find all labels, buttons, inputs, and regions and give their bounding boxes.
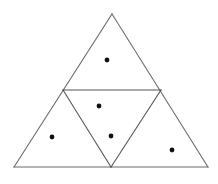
figure-canvas: Triangle divided into four smaller trian… bbox=[0, 0, 218, 184]
diagram-background bbox=[0, 0, 218, 184]
dot-bottom-right-region bbox=[170, 148, 175, 153]
dot-top-region bbox=[105, 58, 110, 63]
triangle-diagram: Triangle divided into four smaller trian… bbox=[0, 0, 218, 184]
dot-center-upper bbox=[97, 104, 102, 109]
dot-center-lower bbox=[109, 134, 114, 139]
dot-bottom-left-region bbox=[50, 135, 55, 140]
